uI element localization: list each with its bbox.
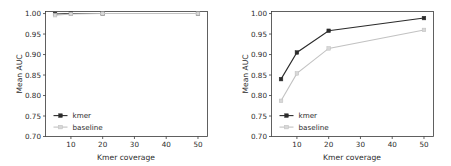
figure-two-panel-line-charts: 0.700.750.800.850.900.951.00 1020304050 … xyxy=(0,0,451,166)
left-panel-marker-baseline xyxy=(101,12,105,16)
right-panel-legend-label-kmer: kmer xyxy=(299,111,318,120)
left-panel-legend-label-baseline: baseline xyxy=(73,123,104,132)
left-panel-series xyxy=(53,12,200,17)
left-panel-line-baseline xyxy=(55,14,198,16)
right-panel-marker-baseline xyxy=(295,72,299,76)
right-panel-plot: 0.700.750.800.850.900.951.00 1020304050 … xyxy=(226,0,451,166)
left-panel-y-tick-label: 0.85 xyxy=(25,71,41,80)
right-panel-y-tick-label: 0.85 xyxy=(251,71,267,80)
left-panel-marker-baseline xyxy=(69,12,73,16)
right-panel-legend-label-baseline: baseline xyxy=(299,123,330,132)
left-panel-marker-baseline xyxy=(196,12,200,16)
right-panel-series xyxy=(279,16,426,102)
right-panel-y-tick-label: 0.80 xyxy=(251,91,267,100)
right-panel-x-tick-label: 10 xyxy=(292,140,302,149)
right-panel-marker-baseline xyxy=(422,28,426,32)
left-panel-marker-baseline xyxy=(53,13,57,17)
right-panel-x-ticks: 1020304050 xyxy=(292,137,429,149)
chart-panel-right: 0.700.750.800.850.900.951.00 1020304050 … xyxy=(226,0,451,166)
right-panel-legend: kmerbaseline xyxy=(280,111,330,132)
right-panel-y-ticks: 0.700.750.800.850.900.951.00 xyxy=(251,9,272,141)
left-panel-x-tick-label: 40 xyxy=(162,140,172,149)
right-panel-y-tick-label: 0.70 xyxy=(251,132,267,141)
right-panel-marker-baseline xyxy=(327,47,331,51)
right-panel-marker-kmer xyxy=(279,77,283,81)
left-panel-x-tick-label: 20 xyxy=(98,140,108,149)
left-panel-y-tick-label: 0.70 xyxy=(25,132,41,141)
right-panel-ylabel: Mean AUC xyxy=(241,54,250,93)
left-panel-y-tick-label: 1.00 xyxy=(25,9,41,18)
chart-panel-left: 0.700.750.800.850.900.951.00 1020304050 … xyxy=(0,0,225,166)
left-panel-y-tick-label: 0.75 xyxy=(25,112,41,121)
right-panel-marker-kmer xyxy=(327,29,331,33)
right-panel-y-tick-label: 0.75 xyxy=(251,112,267,121)
right-panel-x-tick-label: 30 xyxy=(356,140,366,149)
left-panel-x-tick-label: 10 xyxy=(66,140,76,149)
left-panel-y-tick-label: 0.80 xyxy=(25,91,41,100)
left-panel-y-tick-label: 0.90 xyxy=(25,50,41,59)
left-panel-axes-frame xyxy=(46,12,208,137)
right-panel-line-kmer xyxy=(281,18,424,79)
left-panel-legend-marker-kmer xyxy=(59,114,63,118)
left-panel-x-tick-label: 30 xyxy=(130,140,140,149)
right-panel-y-tick-label: 0.95 xyxy=(251,30,267,39)
left-panel-xlabel: Kmer coverage xyxy=(97,153,155,162)
left-panel-legend: kmerbaseline xyxy=(54,111,104,132)
right-panel-xlabel: Kmer coverage xyxy=(323,153,381,162)
left-panel-x-tick-label: 50 xyxy=(193,140,203,149)
right-panel-x-tick-label: 50 xyxy=(419,140,429,149)
left-panel-y-tick-label: 0.95 xyxy=(25,30,41,39)
right-panel-y-tick-label: 1.00 xyxy=(251,9,267,18)
right-panel-marker-kmer xyxy=(295,51,299,55)
right-panel-marker-kmer xyxy=(422,16,426,20)
right-panel-marker-baseline xyxy=(279,99,283,103)
left-panel-y-ticks: 0.700.750.800.850.900.951.00 xyxy=(25,9,46,141)
left-panel-x-ticks: 1020304050 xyxy=(66,137,203,149)
right-panel-legend-marker-kmer xyxy=(285,114,289,118)
left-panel-ylabel: Mean AUC xyxy=(15,54,24,93)
left-panel-plot: 0.700.750.800.850.900.951.00 1020304050 … xyxy=(0,0,225,166)
left-panel-legend-label-kmer: kmer xyxy=(73,111,92,120)
right-panel-line-baseline xyxy=(281,30,424,101)
right-panel-x-tick-label: 20 xyxy=(324,140,334,149)
right-panel-legend-marker-baseline xyxy=(285,125,289,129)
right-panel-x-tick-label: 40 xyxy=(388,140,398,149)
right-panel-y-tick-label: 0.90 xyxy=(251,50,267,59)
left-panel-legend-marker-baseline xyxy=(59,125,63,129)
